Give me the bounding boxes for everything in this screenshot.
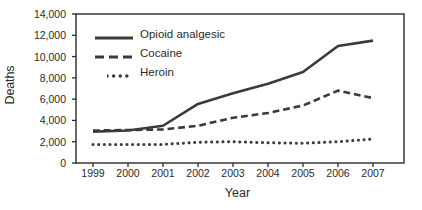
legend-item-cocaine[interactable]: Cocaine [95,44,285,61]
chart-legend: Opioid analgesicCocaineHeroin [95,25,285,82]
series-line-cocaine [93,91,373,131]
legend-item-heroin[interactable]: Heroin [95,63,285,80]
legend-label: Heroin [140,66,174,78]
line-chart-figure: Deaths 02,0004,0006,0008,00010,00012,000… [0,0,422,210]
legend-item-opioid-analgesic[interactable]: Opioid analgesic [95,25,285,42]
legend-label: Cocaine [140,47,182,59]
series-line-heroin [93,139,373,144]
legend-label: Opioid analgesic [140,28,225,40]
legend-swatch-dashed-icon [95,48,133,58]
legend-swatch-dotted-icon [107,67,133,77]
legend-swatch-solid-icon [95,29,133,39]
